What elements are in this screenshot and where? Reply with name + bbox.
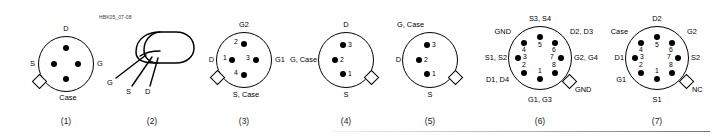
pin [537, 76, 543, 82]
pin [332, 57, 338, 63]
terminal-label-top: D [343, 21, 348, 28]
terminal-label-bottom: S1 [652, 96, 661, 103]
terminal-label-right: G1 [275, 56, 285, 63]
pin [63, 45, 69, 51]
pin [669, 70, 675, 76]
terminal-label-bottom-left: G1 [616, 76, 626, 83]
pin-number: 4 [522, 47, 526, 54]
figure-caption: (1) [46, 116, 86, 126]
pin-number: 8 [669, 62, 673, 69]
terminal-label-right: S2 [691, 54, 700, 61]
terminal-label-top: G2 [239, 21, 249, 28]
lead-label-s: S [126, 88, 131, 95]
terminal-label-bottom: S [344, 91, 349, 98]
terminal-label-tab: NC [692, 86, 703, 93]
pin-number: 1 [655, 68, 659, 75]
figure-caption: (3) [224, 116, 264, 126]
figure-caption: (7) [637, 116, 677, 126]
pin [416, 57, 422, 63]
pin-number: 2 [522, 62, 526, 69]
pin [521, 70, 527, 76]
terminal-label-top: D [63, 25, 68, 32]
terminal-label-top: S3, S4 [529, 15, 551, 22]
pin [654, 34, 660, 40]
terminal-label-left: D [396, 56, 401, 63]
pin [638, 70, 644, 76]
terminal-label-left: G, Case [290, 56, 317, 63]
terminal-label-top-left: GND [495, 28, 511, 35]
terminal-label-bottom: S [428, 91, 433, 98]
pin-number: 2 [234, 39, 238, 46]
pinout-diagram-sheet: HBK05_07-08 D S G Case (1) G S [0, 0, 715, 137]
figure-caption: (2) [132, 116, 172, 126]
pin [654, 76, 660, 82]
pin [75, 61, 81, 67]
figure-caption: (5) [410, 116, 450, 126]
terminal-label-top: D2 [652, 15, 661, 22]
pin [51, 61, 57, 67]
terminal-label-left: D1 [615, 54, 624, 61]
figure-7: 1 2 3 4 5 6 7 8 D2 Case G2 D1 S2 G1 S1 N… [600, 0, 715, 137]
figure-1: D S G Case (1) [28, 0, 106, 137]
pin-number: 5 [655, 42, 659, 49]
terminal-label-right: G2, G4 [574, 54, 598, 61]
pin-number: 8 [552, 62, 556, 69]
pin [63, 76, 69, 82]
terminal-label-left: D [209, 56, 214, 63]
pin-number: 2 [424, 57, 428, 64]
figure-caption: (6) [520, 116, 560, 126]
pin [558, 55, 564, 61]
terminal-label-bottom: G1, G3 [528, 96, 552, 103]
pin [253, 57, 259, 63]
pin-number: 3 [523, 54, 527, 61]
figure-caption: (4) [326, 116, 366, 126]
pin-number: 3 [640, 54, 644, 61]
lead-label-d: D [145, 88, 150, 95]
pin-number: 4 [234, 70, 238, 77]
transistor-can-drawing [106, 0, 198, 120]
terminal-label-top-right: D2, D3 [570, 28, 593, 35]
terminal-label-right: G [97, 60, 103, 67]
pin [515, 55, 521, 61]
pin [241, 41, 247, 47]
terminal-label-tab: GND [575, 86, 591, 93]
pin [241, 72, 247, 78]
pin [675, 55, 681, 61]
pin [340, 71, 346, 77]
terminal-label-top-left: G, Case [397, 21, 424, 28]
pin [537, 34, 543, 40]
pin-number: 7 [550, 54, 554, 61]
terminal-label-left: S1, S2 [485, 54, 507, 61]
pin [552, 70, 558, 76]
figure-3: 2 1 3 4 G2 D G1 S, Case (3) [198, 0, 290, 137]
pin-number: 1 [432, 71, 436, 78]
terminal-label-top-right: G2 [687, 28, 697, 35]
terminal-label-bottom: Case [59, 94, 76, 101]
terminal-label-left: S [30, 60, 35, 67]
terminal-label-top-left: Case [611, 28, 628, 35]
figure-6: 1 2 3 4 5 6 7 8 S3, S4 GND D2, D3 S1, S2… [480, 0, 600, 137]
pin-number: 5 [538, 42, 542, 49]
pin-number: 2 [639, 62, 643, 69]
pin-number: 2 [340, 57, 344, 64]
pin [340, 42, 346, 48]
pin [229, 57, 235, 63]
terminal-label-bottom: S, Case [233, 91, 259, 98]
figure-5: 3 2 1 G, Case D S (5) [388, 0, 480, 137]
pin [424, 71, 430, 77]
pin-number: 3 [432, 42, 436, 49]
pin-number: 3 [246, 55, 250, 62]
terminal-label-bottom-left: D1, D4 [486, 76, 509, 83]
pin-number: 3 [348, 42, 352, 49]
figure-2: G S D (2) [106, 0, 198, 137]
pin-number: 1 [538, 68, 542, 75]
pin-number: 1 [223, 55, 227, 62]
pin-number: 4 [639, 47, 643, 54]
pin-number: 1 [348, 71, 352, 78]
bottom-rule [332, 131, 710, 132]
pin [632, 55, 638, 61]
pin [424, 42, 430, 48]
lead-label-g: G [107, 79, 113, 86]
figure-4: 3 2 1 D G, Case S (4) [296, 0, 388, 137]
pin-number: 7 [667, 54, 671, 61]
